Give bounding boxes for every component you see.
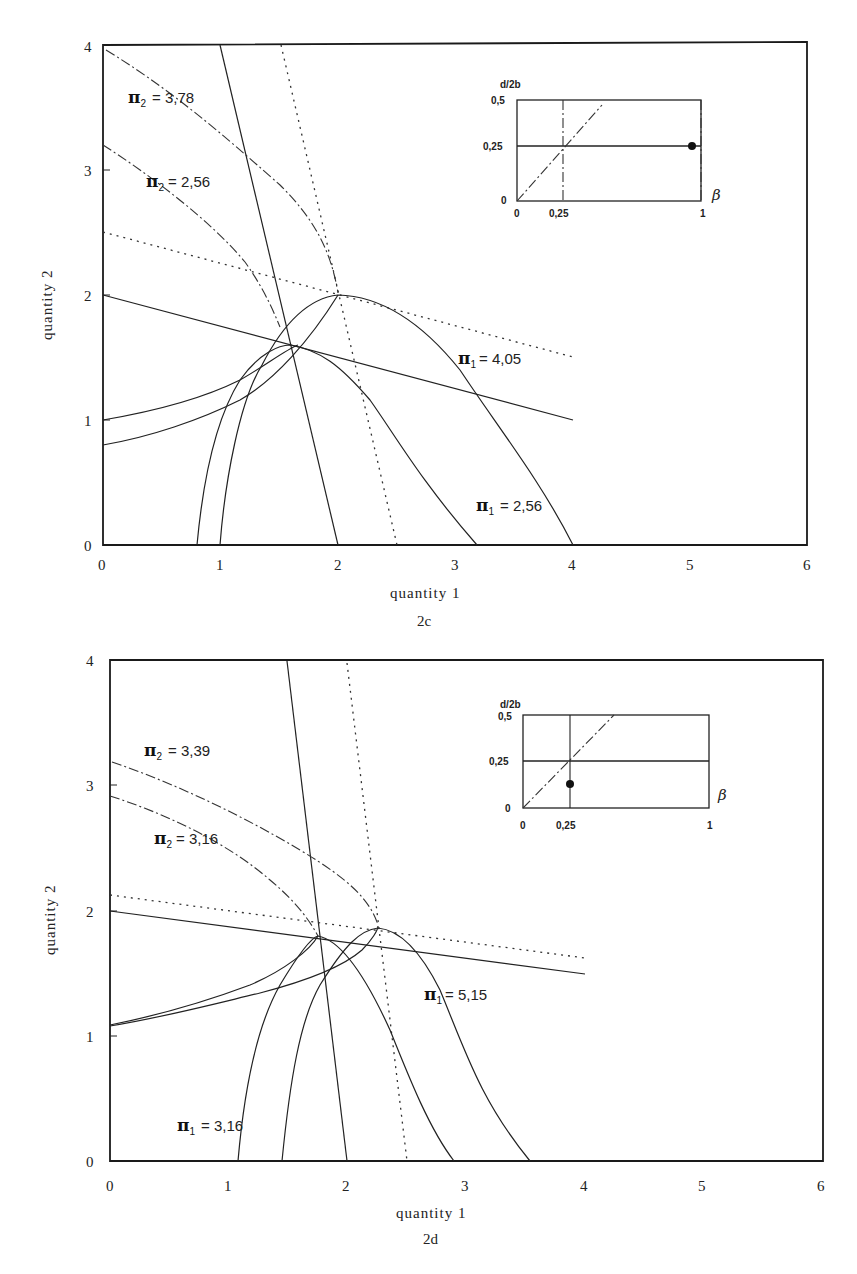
inset-ylabel-2d: d/2b <box>500 699 521 710</box>
y-tick-2: 2 <box>86 904 94 920</box>
y-tick-0: 0 <box>86 1154 94 1170</box>
inset-ytick-05: 0,5 <box>498 711 512 722</box>
x-ticks-2c: 0 1 2 3 4 5 6 <box>98 557 811 573</box>
lower-curve-1-2d <box>110 936 318 1025</box>
x-tick-6: 6 <box>803 557 811 573</box>
x-tick-5: 5 <box>698 1178 706 1194</box>
isoprofit-pi1-316 <box>238 936 454 1161</box>
label-pi1-316: π1= 3,16 <box>177 1115 243 1137</box>
label-pi1-405: π1= 4,05 <box>458 348 521 370</box>
x-axis-label-2d: quantity 1 <box>396 1205 466 1221</box>
label-pi2-256: π2= 2,56 <box>146 171 210 193</box>
lower-curve-1-2c <box>103 345 298 420</box>
x-tick-3: 3 <box>461 1178 469 1194</box>
x-tick-0: 0 <box>106 1178 114 1194</box>
x-tick-6: 6 <box>817 1178 825 1194</box>
x-ticks-2d: 0 1 2 3 4 5 6 <box>106 1178 825 1194</box>
reaction-line-firm1-solid <box>287 661 347 1161</box>
x-tick-4: 4 <box>568 557 576 573</box>
x-tick-0: 0 <box>98 557 106 573</box>
label-pi2-316: π2= 3,16 <box>154 828 218 850</box>
plot-frame-2d <box>110 660 823 1161</box>
annotations-2c: π2= 3,78 π2= 2,56 π1= 4,05 π1= 2,56 <box>128 87 542 517</box>
y-axis-label-2c: quantity 2 <box>39 270 55 340</box>
inset-ylabel-2c: d/2b <box>500 79 521 90</box>
y-tick-2: 2 <box>84 288 92 304</box>
figure-canvas: 0 1 2 3 4 0 1 2 3 4 5 6 quantity 1 quant… <box>0 0 857 1274</box>
x-tick-1: 1 <box>216 557 224 573</box>
label-pi1-515: π1= 5,15 <box>424 984 487 1006</box>
x-tick-5: 5 <box>686 557 694 573</box>
inset-diagonal <box>517 105 602 201</box>
inset-ytick-025: 0,25 <box>483 141 503 152</box>
curves-2c <box>103 45 573 545</box>
inset-ytick-0: 0 <box>505 803 511 814</box>
label-pi2-339: π2= 3,39 <box>144 740 210 762</box>
y-tick-3: 3 <box>84 163 92 179</box>
y-tick-3: 3 <box>86 778 94 794</box>
x-tick-3: 3 <box>451 557 459 573</box>
inset-ytick-025: 0,25 <box>489 756 509 767</box>
inset-2c: d/2b 0,5 0,25 0 0 0,25 1 β <box>483 79 721 219</box>
y-tick-4: 4 <box>84 39 92 55</box>
inset-xlabel-beta-2c: β <box>711 186 721 204</box>
reaction-line-firm1-dotted <box>347 663 407 1161</box>
reaction-line-firm1-solid <box>220 45 338 545</box>
y-tick-1: 1 <box>86 1029 94 1045</box>
inset-point-2d <box>566 780 574 788</box>
reaction-line-firm2-dotted <box>110 895 585 958</box>
y-tick-1: 1 <box>84 413 92 429</box>
inset-xtick-0: 0 <box>514 208 520 219</box>
y-tick-0: 0 <box>84 538 92 554</box>
x-axis-label-2c: quantity 1 <box>390 585 460 601</box>
x-tick-1: 1 <box>224 1178 232 1194</box>
inset-ytick-0: 0 <box>501 195 507 206</box>
y-tick-4: 4 <box>86 653 94 669</box>
reaction-line-firm2-solid <box>110 911 585 974</box>
y-ticks-2c: 0 1 2 3 4 <box>84 39 110 554</box>
chart-2c: 0 1 2 3 4 0 1 2 3 4 5 6 quantity 1 quant… <box>39 39 811 629</box>
chart-2d: 0 1 2 3 4 0 1 2 3 4 5 6 quantity 1 quant… <box>42 653 825 1247</box>
inset-xlabel-beta-2d: β <box>717 786 727 804</box>
inset-xtick-025: 0,25 <box>556 820 576 831</box>
isoprofit-pi1-256 <box>197 345 477 545</box>
x-tick-2: 2 <box>334 557 342 573</box>
x-tick-4: 4 <box>580 1178 588 1194</box>
curves-2d <box>110 661 585 1161</box>
isoprofit-pi1-515 <box>282 928 530 1161</box>
label-pi1-256: π1= 2,56 <box>476 495 542 517</box>
inset-xtick-1: 1 <box>707 820 713 831</box>
figure-caption-2d: 2d <box>423 1231 439 1247</box>
inset-frame-2c <box>517 100 701 201</box>
inset-point-2c <box>688 142 696 150</box>
inset-xtick-0: 0 <box>520 820 526 831</box>
figure-caption-2c: 2c <box>417 613 432 629</box>
inset-2d: d/2b 0,5 0,25 0 0 0,25 1 β <box>489 699 727 831</box>
inset-xtick-025: 0,25 <box>549 208 569 219</box>
y-axis-label-2d: quantity 2 <box>42 885 58 955</box>
x-tick-2: 2 <box>342 1178 350 1194</box>
isoprofit-pi2-378 <box>106 50 338 293</box>
inset-ytick-05: 0,5 <box>491 95 505 106</box>
label-pi2-378: π2= 3,78 <box>128 87 194 109</box>
inset-xtick-1: 1 <box>700 208 706 219</box>
